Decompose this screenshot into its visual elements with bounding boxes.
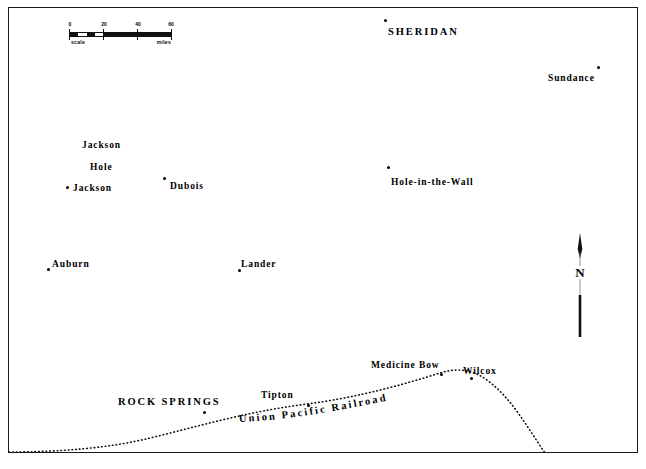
place-name-jackson: Jackson <box>73 183 112 193</box>
north-arrow-glyph <box>573 233 587 337</box>
place-dot-dubois <box>163 177 166 180</box>
place-label-dubois: Dubois <box>170 181 204 191</box>
scale-tick-label-0: 0 <box>69 21 72 27</box>
scale-bar-segments <box>69 32 172 37</box>
place-dot-hole-in-the-wall <box>387 166 390 169</box>
place-dot-lander <box>238 269 241 272</box>
place-dot-wilcox <box>470 377 473 380</box>
place-dot-sundance <box>597 66 600 69</box>
scale-tick-label-20: 20 <box>101 21 107 27</box>
place-label-hole-in-the-wall: Hole-in-the-Wall <box>391 177 473 187</box>
place-name-sheridan: SHERIDAN <box>388 26 459 37</box>
place-label-wilcox: Wilcox <box>463 366 497 376</box>
place-name-wilcox: Wilcox <box>463 366 497 376</box>
scale-tick-label-60: 60 <box>168 21 174 27</box>
scale-caption-right: miles <box>157 39 171 45</box>
place-name-medicine-bow: Medicine Bow <box>371 360 440 370</box>
place-name-tipton: Tipton <box>261 390 294 400</box>
place-label-tipton: Tipton <box>261 390 294 400</box>
place-name-lander: Lander <box>241 259 277 269</box>
place-name-hole-in-the-wall: Hole-in-the-Wall <box>391 177 473 187</box>
place-label-medicine-bow: Medicine Bow <box>371 360 440 370</box>
scale-tick-60 <box>171 29 172 40</box>
place-dot-rock-springs <box>203 411 206 414</box>
place-label-lander: Lander <box>241 259 277 269</box>
place-label-sheridan: SHERIDAN <box>388 26 459 37</box>
north-arrow: N <box>573 233 587 337</box>
north-label: N <box>573 266 586 279</box>
map-canvas: Union Pacific Railroad 0 20 40 60 scale … <box>0 0 646 469</box>
place-dot-auburn <box>47 268 50 271</box>
scale-tick-0 <box>69 29 70 40</box>
place-dot-jackson <box>66 186 69 189</box>
place-label-jackson: Jackson <box>73 183 112 193</box>
place-name-jackson-hole-line1: Jackson <box>82 140 121 150</box>
place-dot-tipton <box>307 404 310 407</box>
place-name-auburn: Auburn <box>52 259 90 269</box>
place-name-jackson-hole-line2: Hole <box>90 162 113 172</box>
map-border-frame <box>8 7 638 453</box>
place-label-jackson-hole-line2: Hole <box>90 162 113 172</box>
place-name-sundance: Sundance <box>548 73 595 83</box>
place-dot-medicine-bow <box>440 373 443 376</box>
place-name-rock-springs: ROCK SPRINGS <box>118 396 220 407</box>
scale-tick-20 <box>103 29 104 40</box>
place-label-auburn: Auburn <box>52 259 90 269</box>
scale-caption-left: scale <box>71 39 85 45</box>
place-label-rock-springs: ROCK SPRINGS <box>118 396 220 407</box>
place-label-sundance: Sundance <box>548 73 595 83</box>
place-name-dubois: Dubois <box>170 181 204 191</box>
scale-tick-40 <box>137 29 138 40</box>
place-dot-sheridan <box>384 19 387 22</box>
scale-bar: 0 20 40 60 scale miles <box>69 26 172 46</box>
scale-tick-label-40: 40 <box>135 21 141 27</box>
place-label-jackson-hole-line1: Jackson <box>82 140 121 150</box>
